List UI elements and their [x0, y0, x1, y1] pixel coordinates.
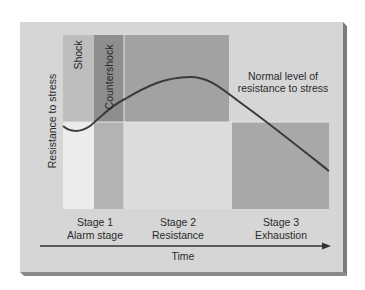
- countershock-lower-block: [94, 122, 124, 209]
- shock-lower-block: [63, 122, 94, 209]
- stage2-lower-block: [124, 122, 232, 209]
- panel-bevel-bottom: [20, 272, 347, 276]
- normal-level-label-line1: Normal level of: [248, 70, 318, 82]
- countershock-label: Countershock: [103, 44, 115, 110]
- panel-bevel-right: [343, 22, 347, 276]
- y-axis-label: Resistance to stress: [46, 74, 58, 169]
- stage2-number: Stage 2: [160, 216, 196, 228]
- stage1-name: Alarm stage: [67, 229, 123, 241]
- gas-diagram: Shock Countershock Resistance to stress …: [0, 0, 365, 290]
- normal-level-label-line2: resistance to stress: [238, 82, 328, 94]
- x-axis-label: Time: [172, 250, 195, 262]
- stage1-number: Stage 1: [77, 216, 113, 228]
- stage3-name: Exhaustion: [255, 229, 307, 241]
- stage2-name: Resistance: [152, 229, 204, 241]
- shock-label: Shock: [72, 40, 84, 70]
- stage3-block: [232, 122, 329, 209]
- stage3-number: Stage 3: [263, 216, 299, 228]
